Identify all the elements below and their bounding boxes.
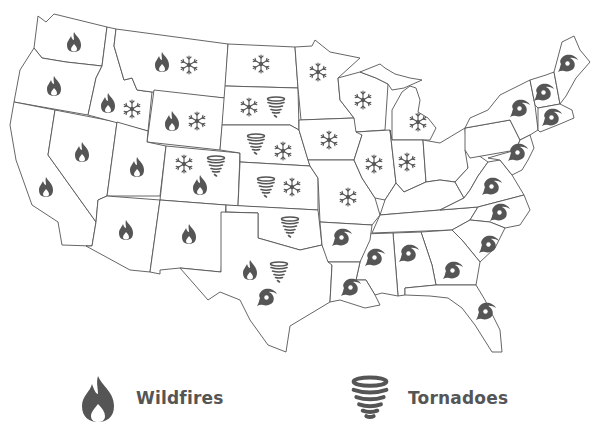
state-SD (222, 86, 299, 130)
us-hazard-map (0, 0, 602, 360)
tornado-icon (350, 374, 390, 422)
legend-label: Wildfires (136, 388, 224, 408)
state-MI (392, 86, 436, 140)
state-KS (238, 162, 318, 210)
map-legend: Wildfires Tornadoes (0, 372, 602, 419)
legend-item-tornadoes: Tornadoes (350, 374, 508, 422)
legend-item-wildfires: Wildfires (78, 374, 224, 422)
fire-icon (78, 374, 118, 422)
state-WY (147, 90, 225, 150)
legend-label: Tornadoes (408, 388, 508, 408)
